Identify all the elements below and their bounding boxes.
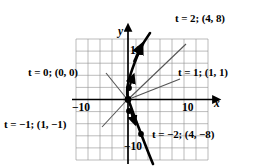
leader-tm1	[102, 100, 127, 127]
annotation-t-1: t = 1; (1, 1)	[178, 66, 228, 78]
point-t1	[126, 85, 132, 91]
annotation-t-2: t = 2; (4, 8)	[175, 12, 225, 24]
x-tick-positive: 10	[182, 101, 194, 113]
annotation-t-minus-2: t = −2; (4, −8)	[152, 128, 214, 140]
annotation-t-minus-1: t = −1; (1, −1)	[4, 118, 66, 130]
x-tick-negative: −10	[72, 101, 90, 113]
leader-lines	[102, 44, 186, 127]
y-tick-negative: −10	[124, 140, 142, 152]
x-axis-label: x	[214, 97, 220, 109]
point-tm1	[126, 108, 132, 114]
figure-container: x y 10 −10 −10 10 t = 2; (4, 8) t = 1; (…	[0, 0, 269, 168]
point-t0	[125, 96, 132, 103]
y-axis-label: y	[118, 25, 123, 37]
point-tm2	[138, 131, 144, 137]
annotation-t-0: t = 0; (0, 0)	[28, 66, 78, 78]
y-tick-positive: 10	[130, 44, 142, 56]
